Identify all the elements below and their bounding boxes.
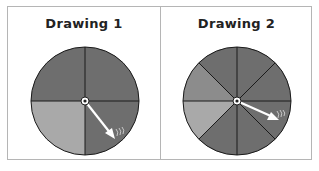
drawings-frame: Drawing 1 Drawing 2 bbox=[7, 6, 312, 160]
drawing-2-panel: Drawing 2 bbox=[161, 7, 312, 159]
drawing-1-panel: Drawing 1 bbox=[8, 7, 161, 159]
spinner-4-icon bbox=[8, 7, 161, 161]
spinner-8-icon bbox=[161, 7, 312, 161]
